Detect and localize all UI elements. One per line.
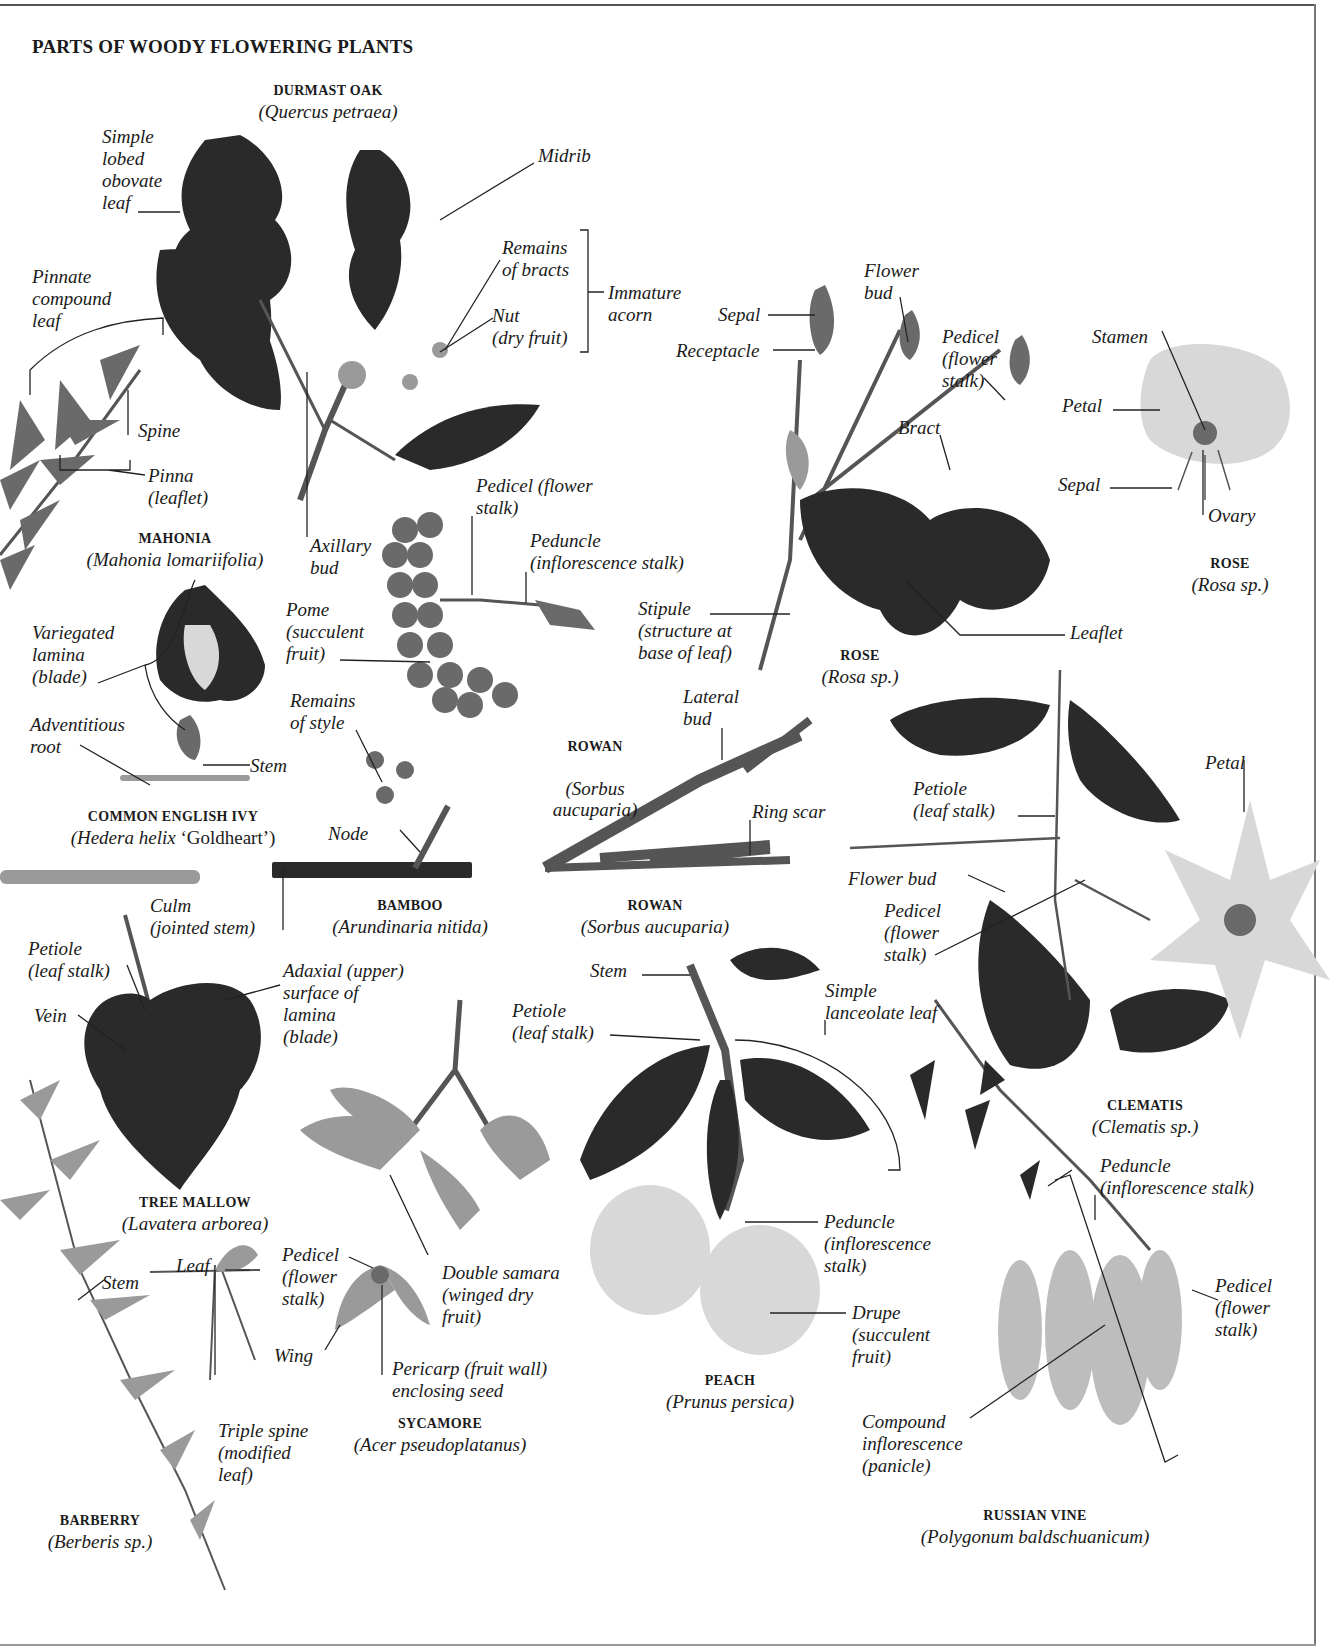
label-mallow-petiole: Petiole (leaf stalk) (28, 938, 110, 982)
tree-mallow-illustration (84, 915, 261, 1190)
specimen-common-name: ROWAN (555, 895, 755, 916)
label-ivy-stem: Stem (250, 755, 287, 777)
specimen-common-name: COMMON ENGLISH IVY (38, 806, 308, 827)
label-rowan-peduncle: Peduncle (inflorescence stalk) (530, 530, 684, 574)
label-sycamore-wing: Wing (274, 1345, 313, 1367)
specimen-common-name: ROSE (800, 645, 920, 666)
label-rose-stamen: Stamen (1092, 326, 1148, 348)
label-peach-simple-lanceolate-leaf: Simple lanceolate leaf (825, 980, 937, 1024)
label-ivy-adventitious-root: Adventitious root (30, 714, 125, 758)
specimen-latin-name: (Lavatera arborea) (100, 1213, 290, 1234)
specimen-common-name: CLEMATIS (1070, 1095, 1220, 1116)
specimen-caption-ivy: COMMON ENGLISH IVY (Hedera helix ‘Goldhe… (38, 806, 308, 848)
specimen-latin-name: (Rosa sp.) (800, 666, 920, 687)
specimen-latin-name: (Sorbus aucuparia) (555, 916, 755, 937)
specimen-latin-name: (Arundinaria nitida) (310, 916, 510, 937)
label-clematis-petiole: Petiole (leaf stalk) (913, 778, 995, 822)
label-mallow-vein: Vein (34, 1005, 67, 1027)
specimen-caption-sycamore: SYCAMORE (Acer pseudoplatanus) (330, 1413, 550, 1455)
specimen-common-name: MAHONIA (60, 528, 290, 549)
label-mahonia-spine: Spine (138, 420, 180, 442)
specimen-common-name: ROWAN (540, 736, 650, 757)
label-clematis-pedicel: Pedicel (flower stalk) (884, 900, 941, 966)
specimen-latin-name: (Prunus persica) (640, 1391, 820, 1412)
specimen-caption-rose-stem: ROSE (Rosa sp.) (800, 645, 920, 687)
specimen-latin-name: (Berberis sp.) (30, 1531, 170, 1552)
specimen-latin-name: (Polygonum baldschuanicum) (890, 1526, 1180, 1547)
label-vine-peduncle: Peduncle (inflorescence stalk) (1100, 1155, 1254, 1199)
label-mahonia-pinna: Pinna (leaflet) (148, 465, 208, 509)
specimen-common-name: BAMBOO (310, 895, 510, 916)
specimen-caption-rowan-twig: ROWAN (Sorbus aucuparia) (555, 895, 755, 937)
label-rowan-pome: Pome (succulent fruit) (286, 599, 364, 665)
specimen-caption-bamboo: BAMBOO (Arundinaria nitida) (310, 895, 510, 937)
specimen-latin-name: (Hedera helix ‘Goldheart’) (38, 827, 308, 848)
specimen-latin-name: (Sorbus aucuparia) (540, 778, 650, 820)
label-vine-compound-inflorescence: Compound inflorescence (panicle) (862, 1411, 963, 1477)
label-peach-stem: Stem (590, 960, 627, 982)
label-oak-simple-leaf: Simple lobed obovate leaf (102, 126, 162, 214)
label-peach-petiole: Petiole (leaf stalk) (512, 1000, 594, 1044)
specimen-common-name: PEACH (640, 1370, 820, 1391)
specimen-caption-durmast-oak: DURMAST OAK (Quercus petraea) (218, 80, 438, 122)
label-mahonia-pinnate-compound-leaf: Pinnate compound leaf (32, 266, 111, 332)
label-oak-midrib: Midrib (538, 145, 591, 167)
label-barberry-stem: Stem (102, 1272, 139, 1294)
page-title: PARTS OF WOODY FLOWERING PLANTS (32, 36, 413, 58)
ivy-illustration (120, 585, 265, 795)
label-bamboo-node: Node (328, 823, 368, 845)
specimen-caption-tree-mallow: TREE MALLOW (Lavatera arborea) (100, 1192, 290, 1234)
specimen-caption-mahonia: MAHONIA (Mahonia lomariifolia) (60, 528, 290, 570)
specimen-caption-russian-vine: RUSSIAN VINE (Polygonum baldschuanicum) (890, 1505, 1180, 1547)
label-rose-stipule: Stipule (structure at base of leaf) (638, 598, 732, 664)
label-rose-flower-bud: Flower bud (864, 260, 919, 304)
specimen-caption-rowan-fruit: ROWAN (Sorbus aucuparia) (540, 715, 650, 841)
label-rowan-remains-of-style: Remains of style (290, 690, 355, 734)
label-oak-axillary-bud: Axillary bud (310, 535, 371, 579)
label-rose-leaflet: Leaflet (1070, 622, 1123, 644)
rose-stem-illustration (760, 285, 1050, 670)
specimen-common-name: SYCAMORE (330, 1413, 550, 1434)
label-sycamore-pedicel: Pedicel (flower stalk) (282, 1244, 339, 1310)
label-rowan-pedicel: Pedicel (flower stalk) (476, 475, 593, 519)
label-barberry-leaf: Leaf (176, 1255, 210, 1277)
label-vine-pedicel: Pedicel (flower stalk) (1215, 1275, 1272, 1341)
rose-flower-illustration (1141, 344, 1290, 500)
label-rose-sepal-bud: Sepal (718, 304, 760, 326)
specimen-common-name: DURMAST OAK (218, 80, 438, 101)
specimen-latin-name: (Clematis sp.) (1070, 1116, 1220, 1137)
specimen-latin-name: (Rosa sp.) (1170, 574, 1290, 595)
specimen-caption-barberry: BARBERRY (Berberis sp.) (30, 1510, 170, 1552)
label-bamboo-culm: Culm (jointed stem) (150, 895, 255, 939)
label-rose-bract: Bract (898, 417, 940, 439)
specimen-caption-peach: PEACH (Prunus persica) (640, 1370, 820, 1412)
label-peach-peduncle: Peduncle (inflorescence stalk) (824, 1211, 931, 1277)
label-rose-pedicel: Pedicel (flower stalk) (942, 326, 999, 392)
label-ivy-variegated-lamina: Variegated lamina (blade) (32, 622, 114, 688)
oak-illustration (156, 135, 540, 500)
label-rose-petal: Petal (1062, 395, 1102, 417)
label-rose-sepal-flower: Sepal (1058, 474, 1100, 496)
label-rowan-ring-scar: Ring scar (752, 801, 825, 823)
label-oak-nut: Nut (dry fruit) (492, 305, 567, 349)
specimen-latin-name: (Mahonia lomariifolia) (60, 549, 290, 570)
specimen-common-name: RUSSIAN VINE (890, 1505, 1180, 1526)
specimen-common-name: BARBERRY (30, 1510, 170, 1531)
label-clematis-flower-bud: Flower bud (848, 868, 936, 890)
label-rose-receptacle: Receptacle (676, 340, 759, 362)
specimen-latin-name: (Quercus petraea) (218, 101, 438, 122)
label-sycamore-pericarp: Pericarp (fruit wall) enclosing seed (392, 1358, 547, 1402)
specimen-caption-rose-flower: ROSE (Rosa sp.) (1170, 553, 1290, 595)
label-rose-ovary: Ovary (1208, 505, 1255, 527)
label-oak-remains-of-bracts: Remains of bracts (502, 237, 569, 281)
specimen-common-name: ROSE (1170, 553, 1290, 574)
specimen-common-name: TREE MALLOW (100, 1192, 290, 1213)
label-mallow-adaxial-surface: Adaxial (upper) surface of lamina (blade… (283, 960, 404, 1048)
label-clematis-petal: Petal (1205, 752, 1245, 774)
label-sycamore-double-samara: Double samara (winged dry fruit) (442, 1262, 560, 1328)
label-peach-drupe: Drupe (succulent fruit) (852, 1302, 930, 1368)
specimen-latin-name: (Acer pseudoplatanus) (330, 1434, 550, 1455)
specimen-caption-clematis: CLEMATIS (Clematis sp.) (1070, 1095, 1220, 1137)
label-barberry-triple-spine: Triple spine (modified leaf) (218, 1420, 308, 1486)
label-oak-immature-acorn: Immature acorn (608, 282, 681, 326)
